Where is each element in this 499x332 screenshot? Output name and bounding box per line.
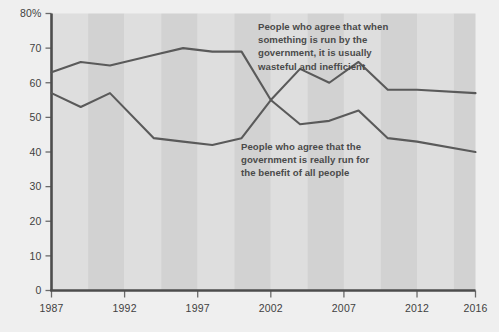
background-band xyxy=(417,14,454,291)
annotation-line: something is run by the xyxy=(258,34,367,45)
line-chart: 01020304050607080% 198719921997200220072… xyxy=(0,0,499,332)
annotation-line: government is really run for xyxy=(241,154,369,165)
annotation-line: People who agree that when xyxy=(258,21,388,32)
x-tick-label: 2002 xyxy=(259,302,283,314)
annotation-line: People who agree that the xyxy=(241,141,361,152)
x-axis-ticks: 1987199219972002200720122016 xyxy=(39,291,487,314)
background-band xyxy=(88,14,125,291)
y-tick-label: 10 xyxy=(29,250,41,262)
background-band xyxy=(198,14,235,291)
y-tick-label: 50 xyxy=(29,111,41,123)
chart-svg-wrapper: 01020304050607080% 198719921997200220072… xyxy=(0,0,499,332)
y-tick-label: 40 xyxy=(29,146,41,158)
annotation-line: wasteful and inefficient xyxy=(257,61,366,72)
y-tick-label: 60 xyxy=(29,77,41,89)
x-tick-label: 1997 xyxy=(186,302,210,314)
x-tick-label: 1987 xyxy=(39,302,63,314)
background-band xyxy=(52,14,89,291)
y-axis-ticks: 01020304050607080% xyxy=(20,7,52,296)
y-tick-label: 0 xyxy=(35,284,41,296)
x-tick-label: 1992 xyxy=(113,302,137,314)
annotation-line: the benefit of all people xyxy=(241,167,349,178)
y-tick-label: 80% xyxy=(20,7,42,19)
x-tick-label: 2012 xyxy=(405,302,429,314)
annotation-line: government, it is usually xyxy=(258,47,372,58)
y-tick-label: 20 xyxy=(29,215,41,227)
background-band xyxy=(380,14,417,291)
x-tick-label: 2007 xyxy=(332,302,356,314)
y-tick-label: 70 xyxy=(29,42,41,54)
y-tick-label: 30 xyxy=(29,180,41,192)
chart-container: 01020304050607080% 198719921997200220072… xyxy=(0,0,499,332)
background-band xyxy=(161,14,198,291)
x-tick-label: 2016 xyxy=(463,302,487,314)
